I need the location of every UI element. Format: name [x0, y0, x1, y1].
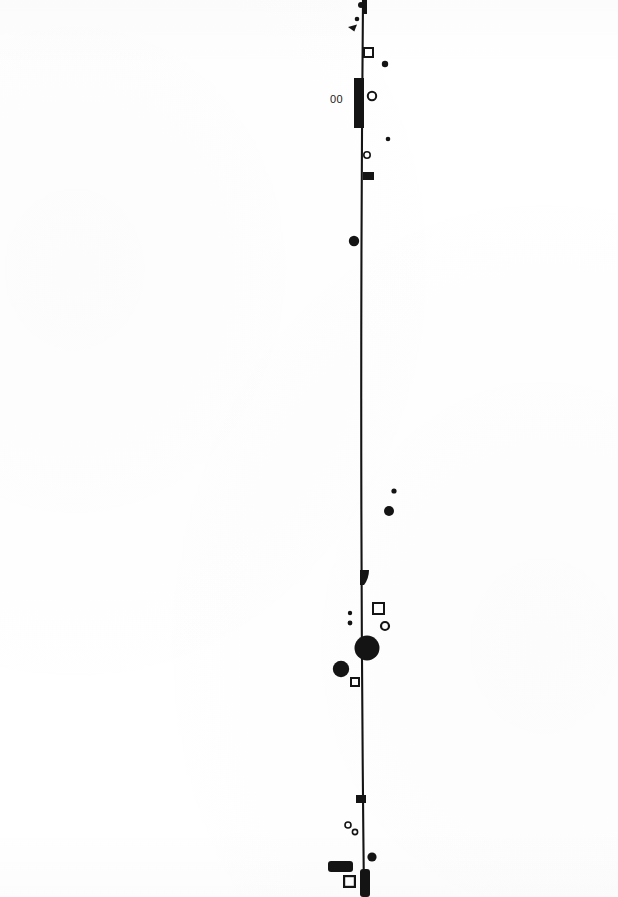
mark-dot — [333, 661, 349, 677]
mark-dot — [348, 611, 352, 615]
numeral-00-label: 00 — [330, 93, 343, 105]
mark-ring — [381, 622, 389, 630]
mark-ring — [364, 152, 370, 158]
mark-ring — [345, 822, 351, 828]
mark-wedge — [348, 25, 357, 32]
mark-ring — [352, 829, 357, 834]
mark-square-outline — [351, 678, 359, 686]
mark-square-outline — [364, 48, 373, 57]
mark-dot — [355, 636, 380, 661]
vertical-rule — [361, 0, 364, 897]
mark-dot — [386, 137, 391, 142]
mark-dot — [382, 61, 388, 67]
mark-dot — [355, 17, 360, 22]
mark-rect — [363, 172, 374, 180]
mark-square-outline — [373, 603, 384, 614]
mark-rect — [356, 795, 366, 803]
scan-ink-layer — [0, 0, 618, 897]
mark-square-outline — [344, 876, 355, 887]
mark-ring — [368, 92, 376, 100]
mark-dot — [367, 852, 376, 861]
scanned-page: 00 — [0, 0, 618, 897]
mark-dot — [348, 621, 353, 626]
mark-dot — [384, 506, 394, 516]
mark-rounded-rect — [328, 861, 353, 872]
mark-dot — [391, 488, 396, 493]
mark-dot — [358, 2, 364, 8]
mark-blob — [360, 570, 369, 585]
ink-marks-group — [328, 0, 397, 897]
mark-thick-bar — [354, 78, 364, 128]
mark-dot — [349, 236, 359, 246]
rule-cap-bottom — [360, 869, 370, 897]
